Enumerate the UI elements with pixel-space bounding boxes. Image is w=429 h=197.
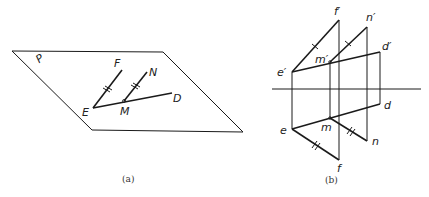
label-m: M: [120, 105, 130, 118]
caption-a: (a): [122, 174, 134, 184]
line-mn: [124, 72, 147, 101]
label-d: D: [173, 92, 181, 105]
label-d-prime: d′: [382, 40, 392, 53]
label-m-prime: m′: [315, 53, 329, 66]
line-mn-top: [330, 118, 367, 141]
line-ed: [93, 93, 172, 108]
label-e-top: e: [280, 124, 287, 137]
label-f-top: f: [337, 162, 343, 175]
figure-a: P E F M N D (a): [12, 51, 243, 184]
label-e: E: [82, 106, 89, 119]
caption-b: (b): [325, 175, 338, 185]
label-m-top: m: [321, 121, 332, 134]
label-f: F: [114, 57, 121, 70]
projection-diagram: P E F M N D (a): [0, 0, 429, 197]
line-ef-top: [292, 129, 339, 160]
label-n: N: [149, 66, 157, 79]
plane-p: [12, 51, 243, 132]
line-ef: [93, 70, 122, 108]
plane-label: P: [33, 51, 46, 66]
label-n-top: n: [372, 135, 379, 148]
figure-b: e′ f′ m′ n′ d′ e f m n d (b): [272, 5, 421, 185]
label-f-prime: f′: [334, 5, 341, 18]
label-e-prime: e′: [277, 66, 287, 79]
label-n-prime: n′: [366, 11, 376, 24]
label-d-top: d: [384, 99, 392, 112]
